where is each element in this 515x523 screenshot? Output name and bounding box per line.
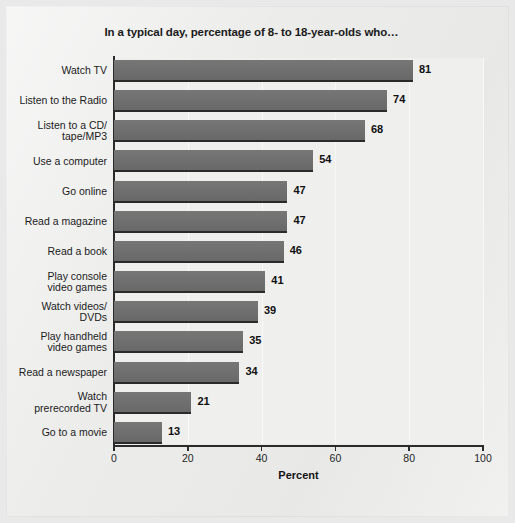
bar <box>114 211 287 233</box>
bar-value-label: 39 <box>264 304 276 316</box>
gridline-100 <box>483 58 484 444</box>
chart-page: In a typical day, percentage of 8- to 18… <box>0 0 515 523</box>
bar <box>114 60 413 82</box>
x-tick-mark-20 <box>187 446 189 451</box>
bar-row: 13 <box>114 422 483 444</box>
bar <box>114 362 239 384</box>
category-label: Read a newspaper <box>0 367 107 379</box>
bar-row: 21 <box>114 392 483 414</box>
x-axis-title: Percent <box>114 469 483 481</box>
bar-value-label: 81 <box>419 63 431 75</box>
x-tick-mark-100 <box>482 446 484 451</box>
x-tick-label: 100 <box>474 452 492 464</box>
category-label: Listen to a CD/ tape/MP3 <box>0 120 107 143</box>
bar-value-label: 47 <box>293 214 305 226</box>
bar <box>114 181 287 203</box>
page-title: In a typical day, percentage of 8- to 18… <box>0 26 503 38</box>
bar-row: 68 <box>114 120 483 142</box>
category-label: Listen to the Radio <box>0 95 107 107</box>
bar-row: 35 <box>114 331 483 353</box>
bar-value-label: 35 <box>249 334 261 346</box>
category-label: Watch prerecorded TV <box>0 391 107 414</box>
bar <box>114 301 258 323</box>
bar-value-label: 34 <box>245 365 257 377</box>
bar <box>114 241 284 263</box>
bar <box>114 422 162 444</box>
bar-value-label: 74 <box>393 93 405 105</box>
bar-value-label: 21 <box>197 395 209 407</box>
bar-row: 46 <box>114 241 483 263</box>
category-label: Play handheld video games <box>0 331 107 354</box>
x-tick-label: 60 <box>330 452 342 464</box>
x-tick-mark-40 <box>261 446 263 451</box>
x-tick-label: 80 <box>403 452 415 464</box>
x-tick-mark-80 <box>408 446 410 451</box>
x-tick-label: 20 <box>182 452 194 464</box>
category-label: Play console video games <box>0 271 107 294</box>
x-tick-mark-60 <box>335 446 337 451</box>
bar <box>114 392 191 414</box>
x-tick-mark-0 <box>113 446 115 451</box>
x-axis-line <box>113 445 484 447</box>
category-label: Go to a movie <box>0 427 107 439</box>
category-label: Read a magazine <box>0 216 107 228</box>
bar-value-label: 46 <box>290 244 302 256</box>
bar-row: 54 <box>114 150 483 172</box>
bar-row: 81 <box>114 60 483 82</box>
bar-row: 34 <box>114 362 483 384</box>
category-label: Watch videos/ DVDs <box>0 301 107 324</box>
bar-row: 47 <box>114 211 483 233</box>
x-tick-label: 40 <box>256 452 268 464</box>
bar-value-label: 47 <box>293 184 305 196</box>
category-label: Read a book <box>0 246 107 258</box>
bar-value-label: 41 <box>271 274 283 286</box>
bar <box>114 271 265 293</box>
bar <box>114 90 387 112</box>
bar <box>114 331 243 353</box>
bar-row: 47 <box>114 181 483 203</box>
bar-row: 74 <box>114 90 483 112</box>
bar <box>114 120 365 142</box>
category-label: Use a computer <box>0 156 107 168</box>
bar-value-label: 13 <box>168 425 180 437</box>
bar <box>114 150 313 172</box>
category-label: Watch TV <box>0 65 107 77</box>
bar-value-label: 54 <box>319 153 331 165</box>
bar-row: 39 <box>114 301 483 323</box>
x-tick-label: 0 <box>111 452 117 464</box>
bar-row: 41 <box>114 271 483 293</box>
category-label: Go online <box>0 186 107 198</box>
bar-value-label: 68 <box>371 123 383 135</box>
